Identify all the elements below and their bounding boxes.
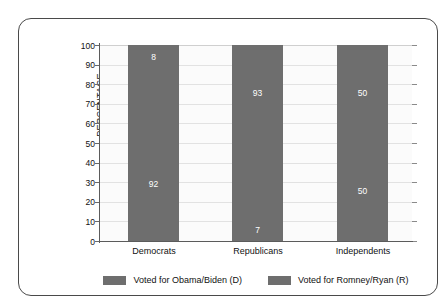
legend-label: Voted for Romney/Ryan (R) (298, 275, 409, 285)
y-tick-50: 50 (73, 140, 95, 149)
legend-swatch-icon (103, 276, 126, 285)
y-tick-70: 70 (73, 100, 95, 109)
y-tick-60: 60 (73, 120, 95, 129)
y-axis-line (99, 43, 100, 243)
legend-item-obama-biden[interactable]: Voted for Obama/Biden (D) (103, 275, 242, 285)
bar-value-democrats-obama: 92 (128, 180, 179, 189)
legend-item-romney-ryan[interactable]: Voted for Romney/Ryan (R) (268, 275, 409, 285)
y-axis-tick-labels: 100 90 80 70 60 50 40 30 20 10 0 (73, 0, 95, 308)
y-tick-30: 30 (73, 179, 95, 188)
plot-area: 8 92 93 7 50 50 (99, 45, 412, 241)
x-axis-line (99, 241, 413, 242)
y-tick-10: 10 (73, 218, 95, 227)
y-tick-40: 40 (73, 159, 95, 168)
bar-independents[interactable]: 50 50 (337, 45, 388, 241)
x-label-independents: Independents (307, 246, 419, 256)
bar-chart: PERCENTAGE 100 90 80 70 60 50 40 30 20 1… (0, 0, 442, 308)
bar-value-republicans-romney: 93 (232, 89, 283, 98)
y-tick-80: 80 (73, 81, 95, 90)
bar-republicans[interactable]: 93 7 (232, 45, 283, 241)
chart-legend: Voted for Obama/Biden (D) Voted for Romn… (99, 270, 413, 290)
bar-value-independents-romney: 50 (337, 89, 388, 98)
bar-democrats[interactable]: 8 92 (128, 45, 179, 241)
y-tick-0: 0 (73, 238, 95, 247)
bar-value-republicans-obama: 7 (232, 226, 283, 235)
legend-swatch-icon (268, 276, 291, 285)
y-tick-20: 20 (73, 198, 95, 207)
legend-label: Voted for Obama/Biden (D) (133, 275, 242, 285)
bar-value-democrats-romney: 8 (128, 53, 179, 62)
y-tick-90: 90 (73, 61, 95, 70)
bar-value-independents-obama: 50 (337, 187, 388, 196)
x-label-democrats: Democrats (98, 246, 210, 256)
y-tick-100: 100 (73, 42, 95, 51)
x-label-republicans: Republicans (202, 246, 314, 256)
